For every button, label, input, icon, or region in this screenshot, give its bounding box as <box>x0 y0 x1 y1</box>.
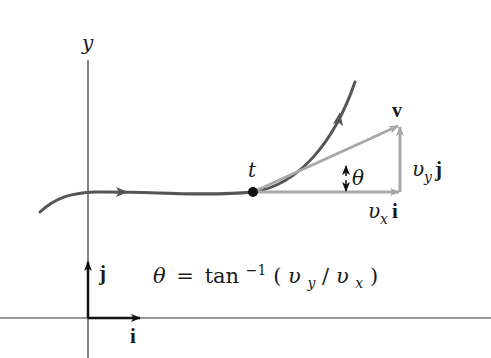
vy-label: υ y j <box>412 157 442 185</box>
point-t-label: t <box>248 158 257 182</box>
svg-text:i: i <box>392 199 398 223</box>
svg-text:υ: υ <box>412 157 424 181</box>
vx-label: υ x i <box>368 199 398 227</box>
svg-text:j: j <box>434 157 442 181</box>
point-t <box>248 187 258 197</box>
unit-vector-j-label: j <box>98 261 106 285</box>
diagram-canvas: y θ t v υ y j υ x i j i θ = tan −1 ( υ <box>0 0 491 358</box>
y-axis-label: y <box>81 31 94 55</box>
velocity-vector-arrow <box>253 126 398 192</box>
velocity-label: v <box>392 99 402 121</box>
svg-text:θ = tan −1: θ = tan −1 ( υ y / υ x ) <box>153 256 378 293</box>
angle-formula: θ = tan −1 ( υ y / υ x ) <box>153 256 378 293</box>
unit-vector-i-label: i <box>130 324 136 348</box>
svg-text:x: x <box>380 211 388 227</box>
svg-text:υ: υ <box>368 199 380 223</box>
svg-text:y: y <box>423 169 433 185</box>
angle-label: θ <box>352 166 364 190</box>
